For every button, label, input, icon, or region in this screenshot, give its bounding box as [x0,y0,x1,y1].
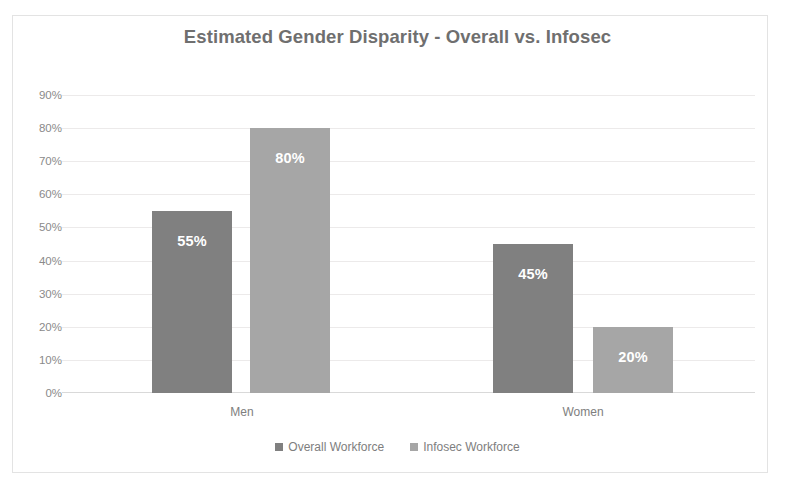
y-axis-tick-0: 0% [6,388,62,400]
bar-men-overall[interactable]: 55% [152,211,232,393]
plot-area: 55% 80% 45% 20% [62,95,755,393]
y-axis-tick-40: 40% [6,256,62,268]
chart-title: Estimated Gender Disparity - Overall vs.… [0,26,795,48]
bar-label-men-overall: 55% [152,233,232,249]
chart-canvas: Estimated Gender Disparity - Overall vs.… [0,0,795,492]
y-axis-tick-80: 80% [6,123,62,135]
x-axis-category-men: Men [152,405,332,419]
bar-label-women-overall: 45% [493,266,573,282]
y-axis-tick-60: 60% [6,189,62,201]
y-axis-tick-90: 90% [6,90,62,102]
legend-label-overall: Overall Workforce [288,440,384,454]
legend-label-infosec: Infosec Workforce [423,440,519,454]
legend-item-overall-workforce[interactable]: Overall Workforce [275,440,384,454]
y-axis-tick-70: 70% [6,156,62,168]
legend-swatch-icon-infosec [410,443,418,451]
x-axis-category-women: Women [493,405,673,419]
y-axis-tick-20: 20% [6,322,62,334]
bar-men-infosec[interactable]: 80% [250,128,330,393]
bar-label-men-infosec: 80% [250,150,330,166]
chart-legend: Overall Workforce Infosec Workforce [0,440,795,454]
gridline-60 [62,194,755,195]
bar-women-infosec[interactable]: 20% [593,327,673,393]
bar-women-overall[interactable]: 45% [493,244,573,393]
legend-item-infosec-workforce[interactable]: Infosec Workforce [410,440,519,454]
bar-label-women-infosec: 20% [593,349,673,365]
gridline-90 [62,95,755,96]
gridline-70 [62,161,755,162]
y-axis-tick-10: 10% [6,355,62,367]
gridline-80 [62,128,755,129]
y-axis-tick-50: 50% [6,222,62,234]
legend-swatch-icon-overall [275,443,283,451]
y-axis-tick-30: 30% [6,289,62,301]
